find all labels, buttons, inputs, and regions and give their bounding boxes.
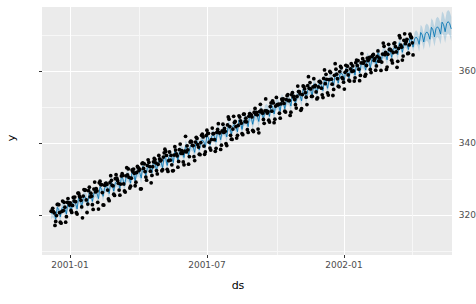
x-tick-label-2002-01: 2002-01: [309, 261, 379, 270]
x-tick-label-2001-07: 2001-07: [172, 261, 242, 270]
x-tick-mark-2001-07: [207, 255, 208, 258]
x-tick-mark-2001-01: [70, 255, 71, 258]
y-axis-title: y: [2, 128, 22, 148]
forecast-plot-svg: [42, 7, 452, 255]
x-tick-label-2001-01: 2001-01: [35, 261, 105, 270]
x-tick-mark-2002-01: [344, 255, 345, 258]
plot-panel: [42, 7, 452, 255]
observed-points: [49, 32, 415, 227]
x-axis-title: ds: [0, 279, 476, 292]
prophet-forecast-chart: y 360 340 320 2001-01 2001-07 2002-01 ds: [0, 0, 476, 304]
